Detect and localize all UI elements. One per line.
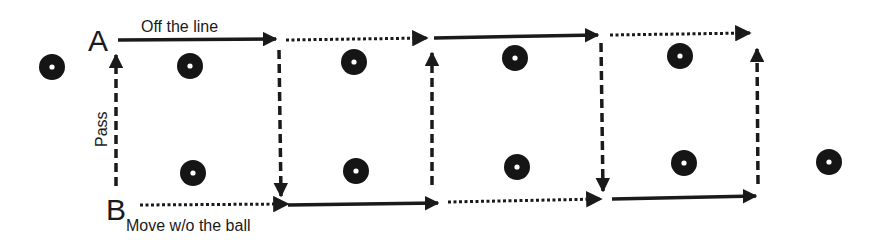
run-arrow: [434, 35, 598, 38]
pass-label: Pass: [94, 111, 110, 147]
off-the-line-label: Off the line: [141, 19, 218, 35]
move-without-ball-arrow: [286, 38, 427, 40]
move-without-ball-label: Move w/o the ball: [126, 218, 251, 234]
cone-center: [826, 159, 831, 164]
pass-arrow: [279, 50, 281, 196]
player-b-label: B: [106, 195, 126, 225]
cone-center: [187, 63, 192, 68]
drill-diagram: [0, 0, 879, 244]
player-a-label: A: [88, 26, 108, 56]
move-without-ball-arrow: [448, 199, 601, 202]
pass-arrow: [757, 49, 758, 184]
cones-group: [39, 43, 842, 186]
run-arrow: [118, 39, 276, 40]
cone-center: [49, 64, 54, 69]
cone-center: [353, 168, 358, 173]
pass-arrow: [601, 43, 603, 191]
run-arrow: [612, 196, 756, 199]
arrows-group: [116, 33, 758, 205]
cone-center: [351, 59, 356, 64]
cone-center: [681, 160, 686, 165]
run-arrow: [288, 203, 438, 205]
cone-center: [190, 170, 195, 175]
cone-center: [514, 164, 519, 169]
cone-center: [677, 53, 682, 58]
cone-center: [512, 55, 517, 60]
move-without-ball-arrow: [140, 204, 288, 205]
move-without-ball-arrow: [610, 33, 750, 35]
